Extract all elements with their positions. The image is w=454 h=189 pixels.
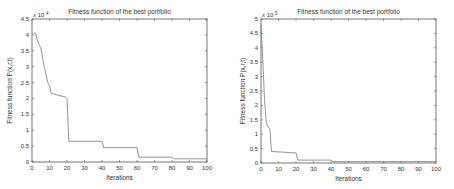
- x-tick-label: 0: [30, 165, 34, 171]
- y-axis-label: Fitness function P(x,r,t): [239, 58, 247, 124]
- x-axis-label: Iterations: [335, 175, 362, 182]
- y-tick-label: 3.5: [250, 59, 259, 65]
- y-tick-label: 4.5: [250, 30, 259, 36]
- y-tick-label: 1: [26, 127, 30, 133]
- x-tick-label: 70: [151, 165, 158, 171]
- left-chart: 010203040506070809010000.511.522.533.544…: [6, 8, 213, 181]
- x-tick-label: 30: [310, 166, 317, 172]
- x-tick-label: 80: [398, 166, 405, 172]
- y-tick-label: 2.5: [21, 80, 30, 86]
- y-tick-label: 1.5: [250, 117, 259, 123]
- y-tick-label: 4.5: [21, 16, 30, 22]
- x-tick-label: 70: [380, 166, 387, 172]
- x-tick-label: 10: [275, 166, 282, 172]
- x-tick-label: 100: [431, 166, 442, 172]
- y-tick-label: 3.5: [21, 48, 30, 54]
- x-tick-label: 50: [116, 165, 123, 171]
- x-tick-label: 90: [186, 165, 193, 171]
- y-tick-label: 2: [26, 95, 30, 101]
- y-tick-label: 4: [26, 32, 30, 38]
- x-tick-label: 40: [328, 166, 335, 172]
- y-tick-label: 2.5: [250, 88, 259, 94]
- x-tick-label: 20: [64, 165, 71, 171]
- y-tick-label: 0.5: [21, 143, 30, 149]
- plot-area: [261, 19, 436, 163]
- plot-area: [32, 19, 207, 162]
- y-tick-label: 1: [255, 131, 259, 137]
- x-tick-label: 80: [169, 165, 176, 171]
- y-multiplier-label: x 10 4: [33, 11, 49, 18]
- chart-figure: 010203040506070809010000.511.522.533.544…: [0, 0, 454, 189]
- x-tick-label: 20: [293, 166, 300, 172]
- x-tick-label: 0: [259, 166, 263, 172]
- y-tick-label: 4: [255, 45, 259, 51]
- x-tick-label: 60: [134, 165, 141, 171]
- x-tick-label: 10: [46, 165, 53, 171]
- x-tick-label: 50: [345, 166, 352, 172]
- y-tick-label: 2: [255, 102, 259, 108]
- y-tick-label: 5: [255, 16, 259, 22]
- y-tick-label: 3: [255, 74, 259, 80]
- y-tick-label: 0: [255, 160, 259, 166]
- y-tick-label: 3: [26, 64, 30, 70]
- x-tick-label: 60: [363, 166, 370, 172]
- x-axis-label: Iterations: [106, 174, 133, 181]
- x-tick-label: 100: [202, 165, 213, 171]
- y-tick-label: 0.5: [250, 146, 259, 152]
- y-tick-label: 1.5: [21, 111, 30, 117]
- chart-title: Fitness function of the best portfolio: [297, 8, 400, 16]
- x-tick-label: 30: [81, 165, 88, 171]
- x-tick-label: 40: [99, 165, 106, 171]
- right-chart: 010203040506070809010000.511.522.533.544…: [239, 8, 442, 182]
- y-tick-label: 0: [26, 159, 30, 165]
- y-axis-label: Fitness function P(x,r,t): [6, 57, 14, 123]
- y-multiplier-label: x 10 5: [262, 11, 278, 18]
- x-tick-label: 90: [415, 166, 422, 172]
- chart-title: Fitness function of the best portfolio: [68, 8, 171, 16]
